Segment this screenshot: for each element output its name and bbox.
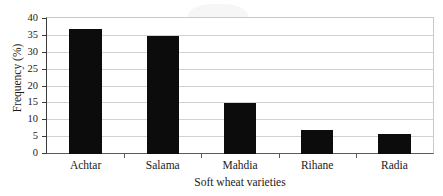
bar: [378, 134, 410, 154]
bar: [69, 29, 101, 154]
bar: [147, 36, 179, 154]
x-axis-tick-labels: AchtarSalamaMahdiaRihaneRadia: [47, 158, 433, 174]
y-axis-tick-label: 25: [14, 64, 38, 74]
y-axis-tick-mark: [42, 86, 46, 87]
y-axis-tick-mark: [42, 119, 46, 120]
y-axis-tick-label: 5: [14, 131, 38, 141]
y-axis-tick-mark: [42, 35, 46, 36]
y-axis-tick-label: 30: [14, 47, 38, 57]
x-axis-tick-mark: [279, 154, 280, 158]
x-axis-tick-label: Achtar: [47, 158, 124, 172]
x-axis-tick-mark: [356, 154, 357, 158]
x-axis-tick-label: Rihane: [279, 158, 356, 172]
y-axis-tick-mark: [42, 18, 46, 19]
y-axis-tick-mark: [42, 69, 46, 70]
y-axis-tick-label: 15: [14, 97, 38, 107]
y-axis-tick-mark: [42, 153, 46, 154]
bar: [301, 130, 333, 154]
bar-chart-figure: Frequency (%) 0510152025303540 AchtarSal…: [0, 0, 443, 196]
y-axis-tick-label: 35: [14, 30, 38, 40]
bar: [224, 103, 256, 154]
x-axis-tick-label: Mahdia: [201, 158, 278, 172]
y-axis-ticks: 0510152025303540: [0, 0, 46, 196]
y-axis-tick-label: 20: [14, 81, 38, 91]
y-axis-tick-mark: [42, 52, 46, 53]
x-axis-tick-label: Radia: [356, 158, 433, 172]
y-axis-tick-mark: [42, 136, 46, 137]
y-axis-tick-label: 40: [14, 13, 38, 23]
x-axis-tick-mark: [124, 154, 125, 158]
x-axis-tick-mark: [201, 154, 202, 158]
y-axis-tick-label: 10: [14, 114, 38, 124]
y-axis-tick-mark: [42, 102, 46, 103]
y-axis-tick-label: 0: [14, 148, 38, 158]
x-axis-tick-label: Salama: [124, 158, 201, 172]
x-axis-title: Soft wheat varieties: [46, 175, 434, 189]
bars-container: [47, 18, 433, 154]
